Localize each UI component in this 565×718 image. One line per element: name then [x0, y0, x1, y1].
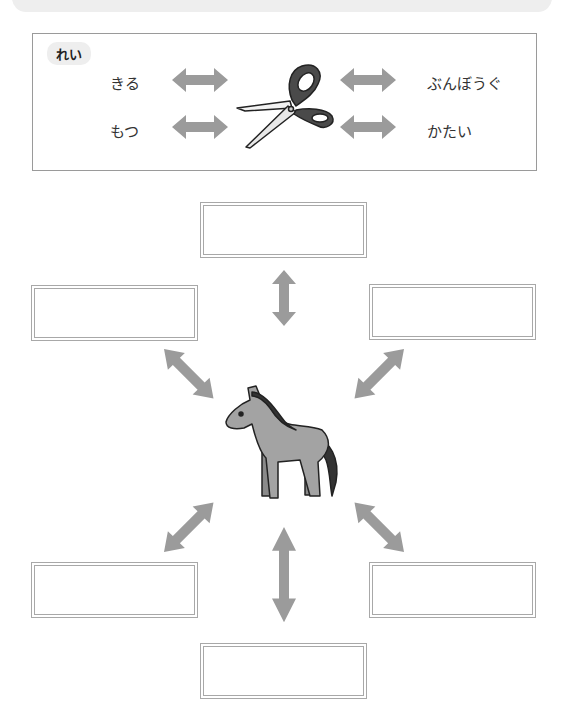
- answer-box-lower-right[interactable]: [369, 562, 536, 618]
- arrow-lower-left: [156, 494, 222, 560]
- example-arrow-bottom-right: [340, 115, 396, 139]
- scissors-icon: [237, 65, 333, 148]
- arrow-lower-right: [346, 494, 412, 560]
- answer-box-upper-right[interactable]: [369, 284, 536, 340]
- answer-box-lower-left[interactable]: [31, 562, 198, 618]
- horse-icon: [226, 386, 337, 498]
- example-arrow-bottom-left: [172, 115, 228, 139]
- answer-box-top[interactable]: [200, 202, 367, 258]
- arrow-upper-right: [346, 341, 412, 407]
- answer-box-bottom[interactable]: [200, 643, 367, 699]
- example-arrow-top-left: [172, 68, 228, 92]
- arrow-top: [272, 270, 296, 326]
- arrow-upper-left: [156, 341, 222, 407]
- arrow-bottom: [272, 527, 296, 622]
- example-arrow-top-right: [340, 68, 396, 92]
- answer-box-upper-left[interactable]: [31, 285, 198, 341]
